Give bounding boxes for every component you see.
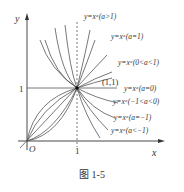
- point-1-1: [75, 86, 79, 90]
- curve-0-lt-a-lt-1: [27, 78, 112, 141]
- x-tick-label: 1: [75, 146, 80, 156]
- y-axis-arrow-icon: [25, 13, 29, 20]
- curve-labels: y=xᵃ(a>1) y=xᵃ(a=1) y=xᵃ(0<a<1) y=xᵃ(a=0…: [83, 12, 160, 135]
- label-neg1-lt-a-lt-0: y=xᵃ(−1<a<0): [112, 97, 160, 106]
- origin-label: O: [29, 144, 36, 154]
- figure-caption: 图 1-5: [0, 166, 184, 181]
- y-axis-label: y: [14, 13, 20, 24]
- curve-a-equals-1: [20, 55, 107, 148]
- y-tick-label: 1: [19, 84, 24, 94]
- curve-a-equals-neg1: [55, 28, 115, 118]
- point-label: (1,1): [102, 77, 118, 87]
- power-function-diagram: y 1 O 1 x (1,1) y=xᵃ(a>1) y=xᵃ(a=1) y=xᵃ…: [0, 0, 184, 192]
- label-a-equals-neg1: y=xᵃ(a=−1): [113, 113, 152, 122]
- x-axis-arrow-icon: [158, 139, 165, 143]
- label-a-gt-1: y=xᵃ(a>1): [83, 12, 117, 21]
- label-a-lt-neg1: y=xᵃ(a<−1): [110, 126, 149, 135]
- x-axis-label: x: [151, 147, 157, 158]
- label-0-lt-a-lt-1: y=xᵃ(0<a<1): [117, 58, 160, 67]
- label-a-equals-0: y=xᵃ(a=0): [123, 84, 157, 93]
- label-a-equals-1: y=xᵃ(a=1): [110, 32, 144, 41]
